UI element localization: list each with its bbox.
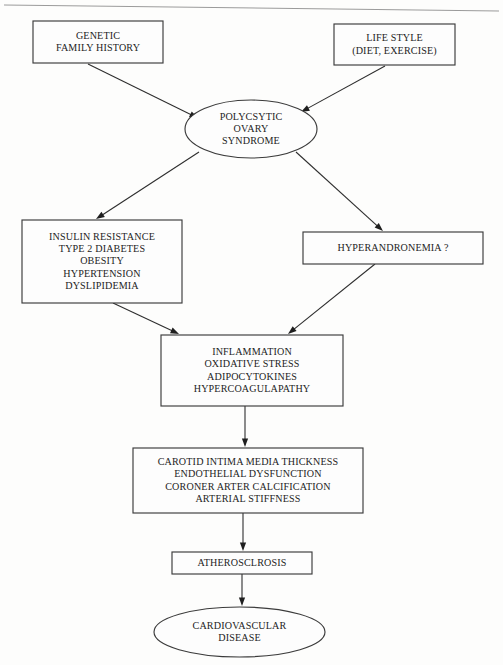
arrowhead-hyperandronemia-to-inflammation xyxy=(288,326,297,334)
edge-genetic-to-pcos xyxy=(88,64,192,115)
node-cvd[interactable] xyxy=(154,607,325,657)
arrowhead-vascular-to-atherosclerosis xyxy=(240,543,246,552)
diagram-canvas xyxy=(0,0,503,665)
node-atherosclerosis[interactable] xyxy=(172,552,312,574)
arrowhead-inflammation-to-vascular xyxy=(242,439,248,448)
edge-metabolic-to-inflammation xyxy=(113,303,173,331)
diagram-page: GENETICFAMILY HISTORYLIFE STYLE(DIET, EX… xyxy=(0,0,503,665)
node-vascular[interactable] xyxy=(133,448,363,513)
scan-rule xyxy=(4,5,499,11)
node-layer xyxy=(22,21,483,657)
node-inflammation[interactable] xyxy=(161,335,343,406)
edge-pcos-to-metabolic xyxy=(102,152,199,215)
node-pcos[interactable] xyxy=(185,100,317,158)
node-genetic[interactable] xyxy=(33,21,163,63)
node-hyperandronemia[interactable] xyxy=(303,232,483,264)
node-metabolic[interactable] xyxy=(22,220,182,303)
edge-hyperandronemia-to-inflammation xyxy=(293,264,375,330)
edge-pcos-to-hyperandronemia xyxy=(296,152,378,226)
node-lifestyle[interactable] xyxy=(334,24,455,65)
edge-lifestyle-to-pcos xyxy=(307,66,385,109)
arrowhead-atherosclerosis-to-cvd xyxy=(239,598,245,607)
arrowhead-pcos-to-metabolic xyxy=(96,212,105,219)
arrowhead-metabolic-to-inflammation xyxy=(170,328,179,334)
